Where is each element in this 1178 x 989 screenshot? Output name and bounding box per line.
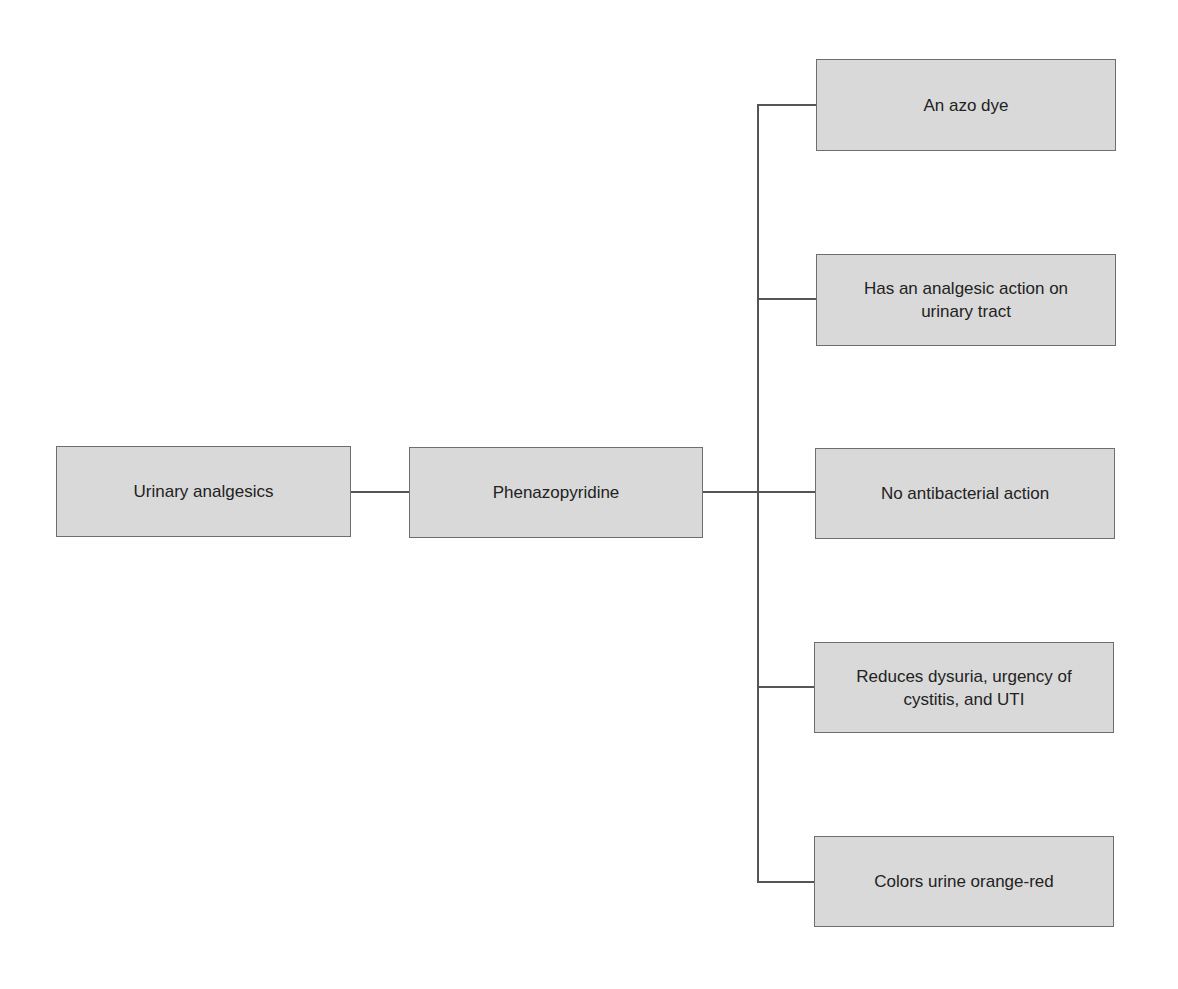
connector-branch-2 (757, 298, 817, 300)
node-phenazopyridine: Phenazopyridine (409, 447, 703, 538)
node-reduces-dysuria: Reduces dysuria, urgency of cystitis, an… (814, 642, 1114, 733)
connector-branch-3 (757, 491, 815, 493)
connector-branch-1 (757, 104, 817, 106)
connector-drug-trunk (702, 491, 758, 493)
node-colors-urine: Colors urine orange-red (814, 836, 1114, 927)
connector-branch-5 (757, 881, 815, 883)
connector-branch-4 (757, 686, 815, 688)
node-analgesic-action: Has an analgesic action on urinary tract (816, 254, 1116, 346)
node-urinary-analgesics: Urinary analgesics (56, 446, 351, 537)
node-no-antibacterial: No antibacterial action (815, 448, 1115, 539)
connector-root-drug (350, 491, 410, 493)
node-azo-dye: An azo dye (816, 59, 1116, 151)
connector-trunk (757, 104, 759, 882)
